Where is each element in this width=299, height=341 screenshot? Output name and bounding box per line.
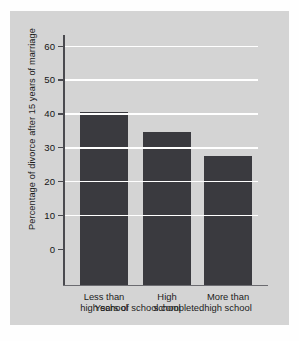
y-tick-mark-50	[58, 79, 64, 80]
y-tick-mark-60	[58, 46, 64, 47]
x-axis-line	[63, 285, 268, 287]
y-tick-label-20: 20	[44, 175, 55, 186]
gridline-60	[63, 46, 258, 48]
gridline-50	[63, 79, 258, 81]
bar-high-school[interactable]	[143, 132, 191, 284]
y-tick-label-30: 30	[44, 142, 55, 153]
y-tick-label-0: 0	[50, 243, 55, 254]
plot-area: 60 50 40 30 20 10 0 Less than high schoo…	[63, 35, 258, 286]
x-category-label-1-line-1: High	[157, 291, 176, 302]
y-tick-mark-0	[58, 249, 64, 250]
y-tick-label-40: 40	[44, 108, 55, 119]
bar-more-than-high-school[interactable]	[204, 156, 252, 285]
y-tick-mark-30	[58, 147, 64, 148]
y-tick-mark-40	[58, 113, 64, 114]
x-category-label-2-line-1: More than	[207, 291, 249, 302]
chart-figure: Percentage of divorce after 15 years of …	[10, 11, 289, 325]
y-tick-label-50: 50	[44, 74, 55, 85]
gridline-30	[63, 147, 258, 149]
bar-less-than-high-school[interactable]	[80, 112, 128, 285]
x-category-label-0-line-1: Less than	[84, 291, 125, 302]
gridline-40	[63, 113, 258, 115]
y-axis-title: Percentage of divorce after 15 years of …	[27, 19, 37, 239]
gridline-20	[63, 181, 258, 183]
y-tick-mark-10	[58, 215, 64, 216]
y-tick-label-10: 10	[44, 209, 55, 220]
gridline-10	[63, 215, 258, 217]
y-tick-mark-20	[58, 181, 64, 182]
y-tick-label-60: 60	[44, 40, 55, 51]
x-axis-title: Years of school completed	[10, 302, 289, 313]
